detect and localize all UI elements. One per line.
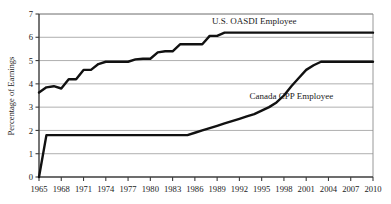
y-tick-label: 3 <box>29 102 33 112</box>
x-tick-label: 2004 <box>320 184 338 194</box>
y-axis-title: Percentage of Earnings <box>6 57 16 136</box>
x-tick-label: 1971 <box>75 184 92 194</box>
x-tick-label: 1986 <box>186 184 204 194</box>
chart-figure: 01234567 1965196819711974197719801983198… <box>0 0 391 204</box>
line-chart: 01234567 1965196819711974197719801983198… <box>0 0 391 204</box>
x-tick-label: 1965 <box>30 184 47 194</box>
x-tick-label: 1995 <box>253 184 270 194</box>
x-tick-label: 1998 <box>275 184 292 194</box>
x-tick-labels: 1965196819711974197719801983198619891992… <box>30 184 381 194</box>
y-tick-label: 2 <box>29 126 33 136</box>
x-tick-label: 1992 <box>231 184 248 194</box>
y-tick-label: 0 <box>29 172 33 182</box>
x-tick-label: 1983 <box>164 184 181 194</box>
x-tick-label: 1977 <box>119 184 137 194</box>
y-tick-label: 5 <box>29 56 33 66</box>
x-tick-label: 2001 <box>298 184 315 194</box>
y-tick-labels: 01234567 <box>29 9 34 182</box>
x-tick-label: 2007 <box>342 184 360 194</box>
x-tick-label: 1980 <box>142 184 159 194</box>
series-label: U.S. OASDI Employee <box>212 16 297 26</box>
y-tick-label: 6 <box>29 32 34 42</box>
series-label: Canada CPP Employee <box>250 91 334 101</box>
x-tick-label: 1968 <box>53 184 70 194</box>
y-tick-label: 4 <box>29 79 34 89</box>
y-tick-label: 1 <box>29 149 33 159</box>
x-tick-label: 2010 <box>364 184 381 194</box>
y-tick-label: 7 <box>29 9 34 19</box>
x-tick-label: 1974 <box>97 184 115 194</box>
x-tick-label: 1989 <box>209 184 226 194</box>
